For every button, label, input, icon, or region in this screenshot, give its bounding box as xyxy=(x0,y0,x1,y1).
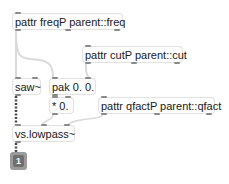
pattr-qfact-object[interactable]: pattr qfactP parent::qfact xyxy=(98,97,215,114)
outlet-port[interactable] xyxy=(52,113,58,115)
vs-lowpass-object[interactable]: vs.lowpass~ xyxy=(12,125,75,142)
object-text: saw~ xyxy=(15,81,41,93)
pattr-cut-object[interactable]: pattr cutP parent::cut xyxy=(82,46,183,63)
object-text: pak 0. 0. xyxy=(52,81,94,93)
outlet-port[interactable] xyxy=(206,113,212,115)
pak-object[interactable]: pak 0. 0. xyxy=(49,78,96,95)
signal-outlet-box[interactable]: 1 xyxy=(10,152,27,170)
inlet-port[interactable] xyxy=(101,96,107,98)
outlet-port[interactable] xyxy=(131,62,137,64)
inlet-port[interactable] xyxy=(15,12,21,14)
inlet-port[interactable] xyxy=(15,77,21,79)
inlet-port[interactable] xyxy=(85,45,91,47)
outlet-port[interactable] xyxy=(174,62,180,64)
outlet-port[interactable] xyxy=(154,113,160,115)
object-text: pattr freqP parent::freq xyxy=(15,16,125,28)
object-text: pattr cutP parent::cut xyxy=(85,49,187,61)
inlet-port[interactable] xyxy=(85,77,91,79)
inlet-port[interactable] xyxy=(52,77,58,79)
inlet-port[interactable] xyxy=(41,124,47,126)
outlet-port[interactable] xyxy=(15,29,21,31)
outlet-index-label: 1 xyxy=(13,155,24,167)
patcher-canvas[interactable]: pattr freqP parent::freq pattr cutP pare… xyxy=(0,0,229,184)
inlet-port[interactable] xyxy=(32,77,38,79)
outlet-port[interactable] xyxy=(65,29,71,31)
object-text: pattr qfactP parent::qfact xyxy=(101,100,221,112)
pattr-freq-object[interactable]: pattr freqP parent::freq xyxy=(12,13,123,30)
multiply-object[interactable]: * 0. xyxy=(49,97,74,114)
outlet-port[interactable] xyxy=(85,62,91,64)
inlet-port[interactable] xyxy=(52,96,58,98)
outlet-port[interactable] xyxy=(101,113,107,115)
object-text: * 0. xyxy=(52,100,69,112)
outlet-port[interactable] xyxy=(15,141,21,143)
outlet-port[interactable] xyxy=(114,29,120,31)
saw-object[interactable]: saw~ xyxy=(12,78,41,95)
object-text: vs.lowpass~ xyxy=(15,128,75,140)
inlet-port[interactable] xyxy=(65,96,71,98)
outlet-port[interactable] xyxy=(15,94,21,96)
inlet-port[interactable] xyxy=(64,124,70,126)
inlet-port[interactable] xyxy=(15,124,21,126)
